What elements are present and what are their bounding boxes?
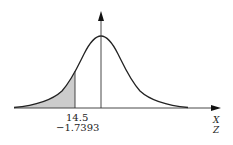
z-value-label: −1.7393 — [56, 122, 99, 133]
shaded-left-tail — [14, 72, 75, 108]
axis-z-label: Z — [213, 125, 219, 136]
horizontal-axis-arrow-icon — [211, 105, 221, 111]
vertical-axis-arrow-icon — [98, 11, 104, 21]
normal-curve-diagram — [0, 0, 233, 145]
